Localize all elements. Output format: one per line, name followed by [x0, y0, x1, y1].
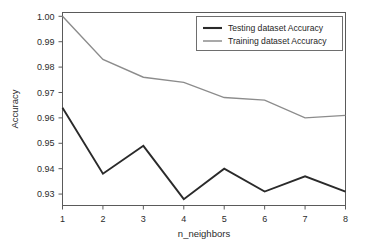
y-tick-label: 0.99 — [37, 37, 55, 47]
x-tick-label: 4 — [181, 214, 186, 224]
legend-label-testing: Testing dataset Accuracy — [228, 23, 324, 33]
x-axis-title: n_neighbors — [178, 228, 231, 239]
chart-canvas: 0.930.940.950.960.970.980.991.00 1234567… — [0, 0, 365, 249]
x-tick-label: 1 — [60, 214, 65, 224]
y-tick-label: 0.97 — [37, 88, 55, 98]
chart-legend: Testing dataset Accuracy Training datase… — [197, 17, 343, 51]
x-tick-label: 5 — [222, 214, 227, 224]
x-tick-label: 6 — [262, 214, 267, 224]
y-tick-label: 0.95 — [37, 138, 55, 148]
x-tick-label: 8 — [343, 214, 348, 224]
y-tick-label: 0.98 — [37, 62, 55, 72]
x-tick-label: 3 — [141, 214, 146, 224]
y-tick-label: 1.00 — [37, 12, 55, 22]
x-tick-label: 2 — [100, 214, 105, 224]
y-axis-title: Accuracy — [9, 89, 20, 128]
y-tick-label: 0.94 — [37, 164, 55, 174]
y-tick-label: 0.93 — [37, 189, 55, 199]
legend-label-training: Training dataset Accuracy — [228, 36, 327, 46]
accuracy-vs-neighbors-chart: 0.930.940.950.960.970.980.991.00 1234567… — [0, 0, 365, 249]
y-tick-label: 0.96 — [37, 113, 55, 123]
x-tick-label: 7 — [303, 214, 308, 224]
